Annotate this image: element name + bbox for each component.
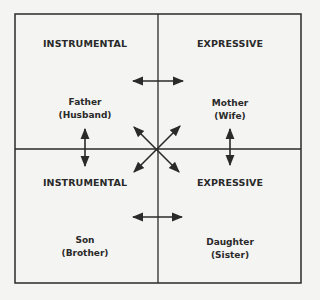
role-alt: (Wife) bbox=[212, 110, 248, 123]
role-son: Son (Brother) bbox=[62, 234, 109, 260]
header-bottom-right: EXPRESSIVE bbox=[197, 177, 263, 188]
role-name: Father bbox=[59, 96, 112, 109]
role-name: Mother bbox=[212, 97, 248, 110]
role-name: Son bbox=[62, 234, 109, 247]
role-father: Father (Husband) bbox=[59, 96, 112, 122]
role-mother: Mother (Wife) bbox=[212, 97, 248, 123]
role-daughter: Daughter (Sister) bbox=[206, 236, 254, 262]
header-top-right: EXPRESSIVE bbox=[197, 38, 263, 49]
role-name: Daughter bbox=[206, 236, 254, 249]
role-alt: (Brother) bbox=[62, 247, 109, 260]
header-bottom-left: INSTRUMENTAL bbox=[43, 177, 127, 188]
role-alt: (Husband) bbox=[59, 109, 112, 122]
role-alt: (Sister) bbox=[206, 249, 254, 262]
header-top-left: INSTRUMENTAL bbox=[43, 38, 127, 49]
